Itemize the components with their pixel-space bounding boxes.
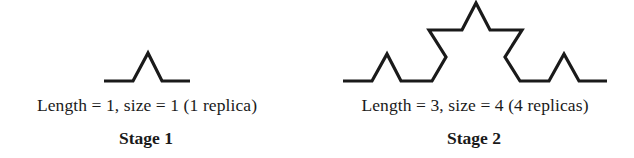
koch-curve-figure: Length = 1, size = 1 (1 replica) Stage 1… xyxy=(0,0,634,158)
stage-1-caption: Length = 1, size = 1 (1 replica) xyxy=(37,95,257,116)
koch-curve-drawing xyxy=(0,0,634,158)
stage-2-caption: Length = 3, size = 4 (4 replicas) xyxy=(361,95,588,116)
stage-2-title: Stage 2 xyxy=(447,128,501,149)
stage-2-koch-curve xyxy=(343,3,607,81)
stage-1-koch-curve xyxy=(104,53,190,81)
stage-1-title: Stage 1 xyxy=(119,128,173,149)
